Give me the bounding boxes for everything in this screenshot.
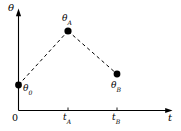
point-label-theta0-subscript: 0 <box>29 89 33 96</box>
tick-label-origin: 0 <box>12 113 18 123</box>
data-point-theta0 <box>15 82 22 89</box>
tick-label-tA-subscript: A <box>67 118 71 125</box>
point-label-thetaB-base: θ <box>111 80 116 90</box>
point-label-thetaB: θB <box>111 81 121 92</box>
segment-thetaA-to-thetaB <box>68 31 117 74</box>
theta-vs-time-figure: θ t 0 tA tB θ0 θA θB <box>0 0 181 131</box>
point-label-thetaA-base: θ <box>62 13 67 23</box>
tick-label-tB-subscript: B <box>116 118 121 125</box>
point-label-theta0: θ0 <box>23 84 32 95</box>
data-point-thetaA <box>64 27 71 34</box>
point-label-thetaB-subscript: B <box>117 86 122 93</box>
tick-label-origin-text: 0 <box>12 112 18 123</box>
point-label-thetaA: θA <box>62 14 72 25</box>
segment-theta0-to-thetaA <box>19 31 69 85</box>
theta-axis-label-text: θ <box>8 2 14 13</box>
theta-axis-arrowhead <box>16 9 21 17</box>
time-axis-label-text: t <box>168 112 172 123</box>
tick-label-tB: tB <box>112 113 120 124</box>
point-label-thetaA-subscript: A <box>68 19 72 26</box>
plot-canvas <box>0 0 181 131</box>
point-label-theta0-base: θ <box>23 83 28 93</box>
tick-label-tA: tA <box>63 113 71 124</box>
theta-axis-label: θ <box>8 3 14 13</box>
time-axis-label: t <box>168 113 172 123</box>
data-point-thetaB <box>114 71 121 78</box>
